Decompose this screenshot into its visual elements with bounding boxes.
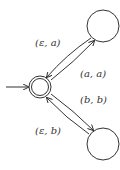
label-eps-a: (ε, a)	[35, 37, 61, 48]
state-q2	[87, 128, 119, 160]
automaton-diagram: (ε, a) (a, a) (b, b) (ε, b)	[0, 0, 120, 170]
state-q0-accepting	[29, 76, 51, 98]
label-b-b: (b, b)	[80, 94, 107, 105]
label-eps-b: (ε, b)	[35, 125, 61, 136]
label-a-a: (a, a)	[80, 68, 106, 79]
state-q1	[87, 10, 119, 42]
